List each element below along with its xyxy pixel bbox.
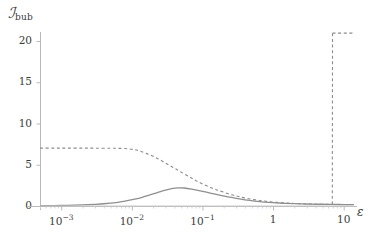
axes-layer [28,32,357,211]
series-layer [40,33,354,206]
chart-canvas [0,0,377,249]
series-dashed-step [40,33,354,204]
chart-figure: ℐbub ε 05101520 10−310−210−1110 [0,0,377,249]
series-solid-curve [40,188,354,206]
